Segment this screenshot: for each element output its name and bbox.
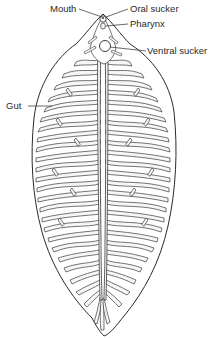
mouth bbox=[102, 17, 104, 19]
label-ventral-sucker: Ventral sucker bbox=[147, 46, 207, 56]
ventral-sucker bbox=[100, 41, 111, 52]
label-gut: Gut bbox=[6, 101, 21, 111]
leader-oral-sucker bbox=[106, 9, 128, 17]
label-mouth: Mouth bbox=[50, 4, 76, 14]
label-oral-sucker: Oral sucker bbox=[130, 4, 179, 14]
leader-mouth bbox=[79, 9, 102, 17]
label-pharynx: Pharynx bbox=[130, 19, 165, 29]
liver-fluke-diagram: Mouth Oral sucker Pharynx Ventral sucker… bbox=[0, 0, 210, 338]
pharynx bbox=[101, 23, 106, 29]
